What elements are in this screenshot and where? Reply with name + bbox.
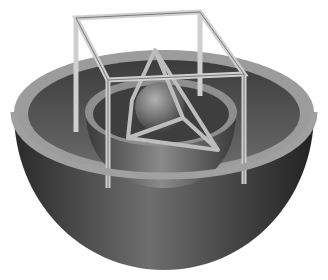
illustration	[0, 0, 328, 280]
kepler-model-illustration	[0, 0, 328, 280]
